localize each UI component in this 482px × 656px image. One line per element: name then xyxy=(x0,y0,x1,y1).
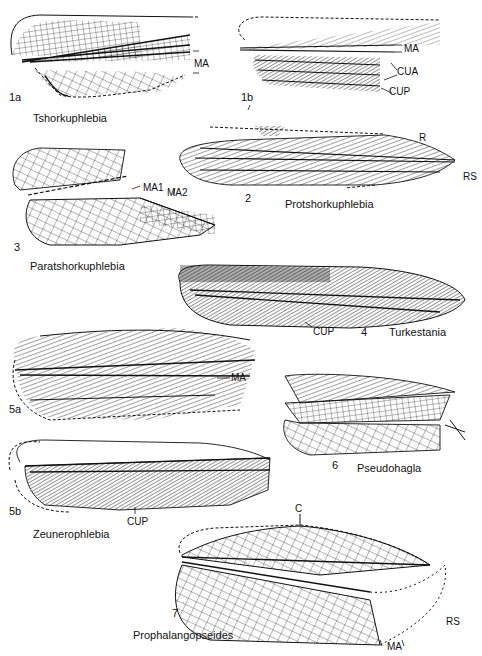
vein-label-rs: RS xyxy=(463,172,477,182)
wing-1b xyxy=(239,17,440,92)
figure-number-6: 6 xyxy=(332,460,338,471)
taxon-name-pseudohagla: Pseudohagla xyxy=(357,463,421,474)
taxon-name-protshorkuphlebia: Protshorkuphlebia xyxy=(285,199,374,210)
vein-label-ma: MA xyxy=(194,59,209,69)
vein-label-cup: CUP xyxy=(127,517,148,527)
vein-label-cup: CUP xyxy=(389,87,410,97)
wing-7 xyxy=(175,514,445,645)
vein-label-ma: MA xyxy=(404,44,419,54)
taxon-name-turkestania: Turkestania xyxy=(389,327,446,338)
taxon-name-zeunerophlebia: Zeunerophlebia xyxy=(33,529,109,540)
wing-5b xyxy=(9,440,270,512)
wing-4 xyxy=(179,265,465,328)
figure-number-2: 2 xyxy=(245,193,251,204)
taxon-name-tshorkuphlebia: Tshorkuphlebia xyxy=(33,113,107,124)
vein-label-ma1: MA1 xyxy=(143,183,164,193)
figure-number-4: 4 xyxy=(361,327,367,338)
vein-label-c: C xyxy=(295,504,302,514)
fossil-wing-plate: 1a MA Tshorkuphlebia 1b MA CUA CUP R RS … xyxy=(0,0,482,656)
figure-number-3: 3 xyxy=(14,242,20,253)
wing-5a xyxy=(13,328,255,420)
vein-label-cup: CUP xyxy=(313,327,334,337)
vein-label-rs: RS xyxy=(446,617,460,627)
figure-number-5b: 5b xyxy=(9,506,21,517)
vein-label-ma2: MA2 xyxy=(167,188,188,198)
figure-number-5a: 5a xyxy=(9,404,21,415)
vein-label-ma: MA xyxy=(231,373,246,383)
figure-number-1a: 1a xyxy=(9,92,21,103)
wing-6 xyxy=(284,374,465,455)
vein-label-ma: MA xyxy=(387,642,402,652)
vein-label-r: R xyxy=(419,133,426,143)
wing-1a xyxy=(11,15,200,97)
vein-label-cua: CUA xyxy=(397,67,418,77)
wing-2 xyxy=(180,126,455,188)
taxon-name-prophalangopseides: Prophalangopseides xyxy=(133,630,233,641)
figure-number-7: 7 xyxy=(172,608,178,619)
taxon-name-paratshorkuphlebia: Paratshorkuphlebia xyxy=(30,261,125,272)
figure-number-1b: 1b xyxy=(241,92,253,103)
